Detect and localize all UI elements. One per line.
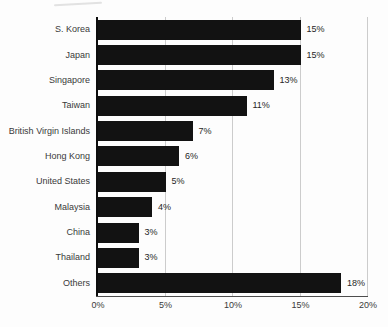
category-label: Others [0, 279, 98, 288]
bar [98, 45, 301, 65]
chart-row: Taiwan11% [0, 93, 388, 118]
bar-area: 18% [98, 271, 368, 296]
chart-row: British Virgin Islands7% [0, 118, 388, 143]
bar [98, 223, 139, 243]
bar [98, 121, 193, 141]
x-tick-label: 5% [159, 301, 172, 310]
chart-rows: S. Korea15%Japan15%Singapore13%Taiwan11%… [0, 17, 388, 296]
category-label: Malaysia [0, 203, 98, 212]
x-tick-label: 10% [224, 301, 242, 310]
category-label: Taiwan [0, 101, 98, 110]
bar-area: 5% [98, 169, 368, 194]
chart-row: Hong Kong6% [0, 144, 388, 169]
bar-area: 11% [98, 93, 368, 118]
bar-area: 6% [98, 144, 368, 169]
category-label: S. Korea [0, 25, 98, 34]
chart-row: Thailand3% [0, 245, 388, 270]
value-label: 3% [145, 228, 158, 237]
bar [98, 20, 301, 40]
chart-row: Singapore13% [0, 68, 388, 93]
value-label: 3% [145, 253, 158, 262]
bar [98, 273, 341, 293]
y-axis-line [96, 17, 98, 297]
value-label: 15% [307, 25, 325, 34]
bar-area: 15% [98, 17, 368, 42]
bar-area: 7% [98, 118, 368, 143]
chart-row: Others18% [0, 271, 388, 296]
category-label: Hong Kong [0, 152, 98, 161]
chart-row: China3% [0, 220, 388, 245]
x-tick-label: 15% [291, 301, 309, 310]
scan-artifact [54, 2, 102, 7]
bar-area: 4% [98, 195, 368, 220]
category-label: British Virgin Islands [0, 127, 98, 136]
bar [98, 96, 247, 116]
value-label: 11% [253, 101, 270, 110]
x-tick-label: 20% [359, 301, 377, 310]
value-label: 15% [307, 51, 325, 60]
chart-row: S. Korea15% [0, 17, 388, 42]
bar-area: 13% [98, 68, 368, 93]
value-label: 6% [185, 152, 198, 161]
value-label: 4% [158, 203, 171, 212]
chart-row: United States5% [0, 169, 388, 194]
category-label: Singapore [0, 76, 98, 85]
chart-row: Japan15% [0, 42, 388, 67]
bar-area: 3% [98, 220, 368, 245]
x-axis-baseline [96, 296, 368, 297]
x-axis: 0%5%10%15%20% [98, 301, 368, 313]
bar [98, 172, 166, 192]
bar-area: 3% [98, 245, 368, 270]
value-label: 13% [280, 76, 298, 85]
bar [98, 146, 179, 166]
bar [98, 197, 152, 217]
value-label: 7% [199, 127, 212, 136]
x-tick-label: 0% [91, 301, 104, 310]
bar [98, 70, 274, 90]
bar [98, 248, 139, 268]
value-label: 5% [172, 177, 185, 186]
category-label: Thailand [0, 253, 98, 262]
category-label: China [0, 228, 98, 237]
value-label: 18% [347, 279, 365, 288]
chart-row: Malaysia4% [0, 195, 388, 220]
bar-chart: S. Korea15%Japan15%Singapore13%Taiwan11%… [0, 0, 388, 327]
category-label: United States [0, 177, 98, 186]
category-label: Japan [0, 51, 98, 60]
bar-area: 15% [98, 42, 368, 67]
